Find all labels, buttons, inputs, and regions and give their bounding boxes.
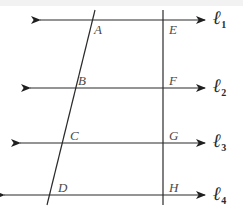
point-label-c: C: [70, 129, 79, 142]
left-transversal-line: [47, 10, 95, 205]
point-label-h: H: [169, 181, 179, 194]
ell-glyph-l2: ℓ: [213, 75, 221, 96]
line-label-l4: ℓ4: [213, 184, 226, 203]
point-label-g: G: [169, 129, 179, 142]
ell-glyph-l3: ℓ: [213, 130, 221, 151]
ell-glyph-l1: ℓ: [213, 7, 221, 28]
line-label-l1: ℓ1: [213, 8, 226, 27]
line-label-l2: ℓ2: [213, 76, 226, 95]
diagram-canvas: [0, 0, 243, 209]
point-label-f: F: [169, 74, 177, 87]
point-label-e: E: [169, 23, 177, 36]
ell-subscript-l4: 4: [221, 195, 226, 206]
transversals-group: [47, 10, 163, 205]
ell-subscript-l2: 2: [221, 87, 226, 98]
point-label-d: D: [58, 181, 68, 194]
point-label-b: B: [78, 74, 86, 87]
ell-subscript-l3: 3: [221, 142, 226, 153]
point-label-a: A: [94, 23, 102, 36]
ell-subscript-l1: 1: [221, 19, 226, 30]
ell-glyph-l4: ℓ: [213, 183, 221, 204]
geometry-figure: A B C D E F G H ℓ1 ℓ2 ℓ3 ℓ4: [0, 0, 243, 209]
line-label-l3: ℓ3: [213, 131, 226, 150]
parallel-lines-group: [4, 20, 205, 195]
